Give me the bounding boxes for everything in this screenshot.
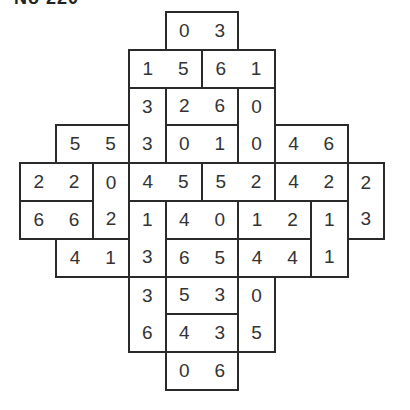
domino-half-value: 5 xyxy=(166,164,201,200)
domino-half-value: 3 xyxy=(202,315,237,351)
domino-tile: 61 xyxy=(201,49,276,89)
domino-tile: 12 xyxy=(237,200,312,240)
domino-board: 0315613326005501462202455242236613401211… xyxy=(0,0,410,410)
domino-half-value: 1 xyxy=(239,202,274,238)
domino-tile: 22 xyxy=(19,162,94,202)
domino-tile: 44 xyxy=(237,238,312,278)
domino-tile: 42 xyxy=(274,162,349,202)
domino-half-value: 2 xyxy=(238,164,273,200)
domino-half-value: 2 xyxy=(94,201,128,238)
domino-half-value: 5 xyxy=(202,240,237,276)
domino-half-value: 2 xyxy=(275,202,310,238)
domino-tile: 02 xyxy=(92,162,130,240)
domino-tile: 06 xyxy=(165,351,240,391)
domino-half-value: 6 xyxy=(311,126,346,162)
domino-half-value: 0 xyxy=(94,164,128,201)
domino-half-value: 3 xyxy=(130,278,164,315)
domino-half-value: 0 xyxy=(167,126,202,162)
domino-tile: 33 xyxy=(128,87,166,165)
domino-half-value: 1 xyxy=(93,240,128,276)
domino-half-value: 6 xyxy=(21,202,56,238)
domino-tile: 46 xyxy=(274,124,349,164)
domino-half-value: 0 xyxy=(167,353,202,389)
domino-half-value: 0 xyxy=(167,13,202,49)
domino-tile: 43 xyxy=(165,313,240,353)
domino-half-value: 4 xyxy=(276,164,311,200)
domino-half-value: 1 xyxy=(312,202,346,239)
domino-half-value: 6 xyxy=(203,51,238,87)
domino-half-value: 2 xyxy=(21,164,56,200)
domino-tile: 52 xyxy=(201,162,276,202)
domino-half-value: 5 xyxy=(239,314,273,351)
domino-tile: 36 xyxy=(128,276,166,354)
domino-half-value: 3 xyxy=(130,125,164,162)
domino-half-value: 1 xyxy=(202,126,237,162)
domino-half-value: 1 xyxy=(312,239,346,276)
domino-tile: 26 xyxy=(165,87,240,127)
domino-half-value: 6 xyxy=(167,240,202,276)
domino-half-value: 2 xyxy=(56,164,91,200)
domino-tile: 13 xyxy=(128,200,166,278)
domino-half-value: 4 xyxy=(167,315,202,351)
domino-half-value: 2 xyxy=(349,164,383,201)
domino-half-value: 2 xyxy=(311,164,346,200)
domino-half-value: 1 xyxy=(238,51,273,87)
domino-half-value: 0 xyxy=(239,89,273,126)
domino-half-value: 5 xyxy=(166,51,201,87)
domino-tile: 03 xyxy=(165,11,240,51)
domino-half-value: 4 xyxy=(130,164,165,200)
domino-tile: 65 xyxy=(165,238,240,278)
domino-tile: 23 xyxy=(347,162,385,240)
domino-half-value: 3 xyxy=(349,201,383,238)
domino-half-value: 4 xyxy=(239,240,274,276)
domino-tile: 45 xyxy=(128,162,203,202)
domino-half-value: 6 xyxy=(202,353,237,389)
domino-tile: 15 xyxy=(128,49,203,89)
domino-half-value: 1 xyxy=(130,51,165,87)
domino-half-value: 4 xyxy=(57,240,92,276)
domino-tile: 05 xyxy=(237,276,275,354)
domino-half-value: 3 xyxy=(202,13,237,49)
domino-tile: 11 xyxy=(310,200,348,278)
domino-half-value: 5 xyxy=(203,164,238,200)
domino-half-value: 6 xyxy=(56,202,91,238)
domino-tile: 55 xyxy=(55,124,130,164)
domino-half-value: 3 xyxy=(130,239,164,276)
domino-tile: 40 xyxy=(165,200,240,240)
domino-half-value: 5 xyxy=(57,126,92,162)
domino-half-value: 3 xyxy=(130,89,164,126)
domino-half-value: 5 xyxy=(93,126,128,162)
domino-half-value: 5 xyxy=(167,278,202,314)
domino-tile: 41 xyxy=(55,238,130,278)
domino-half-value: 0 xyxy=(239,278,273,315)
domino-tile: 53 xyxy=(165,276,240,316)
domino-tile: 66 xyxy=(19,200,94,240)
domino-half-value: 6 xyxy=(130,314,164,351)
domino-tile: 00 xyxy=(237,87,275,165)
domino-half-value: 2 xyxy=(167,89,202,125)
domino-half-value: 1 xyxy=(130,202,164,239)
domino-half-value: 4 xyxy=(276,126,311,162)
domino-half-value: 0 xyxy=(239,125,273,162)
domino-half-value: 4 xyxy=(167,202,202,238)
domino-half-value: 0 xyxy=(202,202,237,238)
domino-half-value: 4 xyxy=(275,240,310,276)
domino-half-value: 3 xyxy=(202,278,237,314)
domino-half-value: 6 xyxy=(202,89,237,125)
domino-tile: 01 xyxy=(165,124,240,164)
